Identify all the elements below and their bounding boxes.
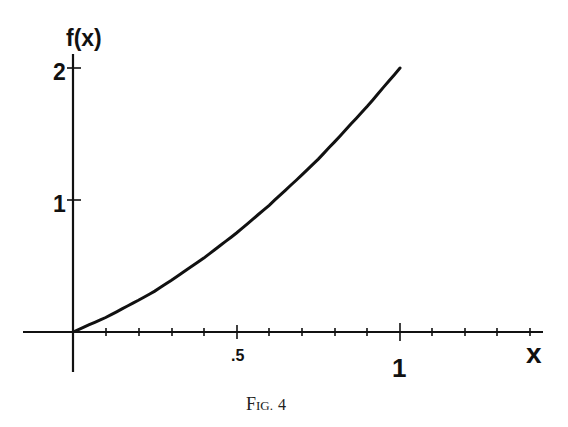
x-tick-label-half: .5 xyxy=(231,347,244,364)
y-axis-label: f(x) xyxy=(66,25,102,51)
caption-number: 4 xyxy=(278,396,286,413)
x-axis-label: x xyxy=(526,338,542,369)
y-tick-label-2: 2 xyxy=(53,59,66,85)
figure: f(x) 2 1 .5 1 x FIG.4 xyxy=(0,0,568,427)
y-tick-label-1: 1 xyxy=(53,191,66,217)
caption-initial: F xyxy=(246,394,256,414)
caption-smallcaps: IG. xyxy=(256,398,273,413)
x-tick-label-1: 1 xyxy=(392,353,406,383)
curve-f xyxy=(73,233,237,332)
figure-caption: FIG.4 xyxy=(246,394,286,414)
f-curve xyxy=(73,68,400,332)
function-curve xyxy=(73,68,400,332)
